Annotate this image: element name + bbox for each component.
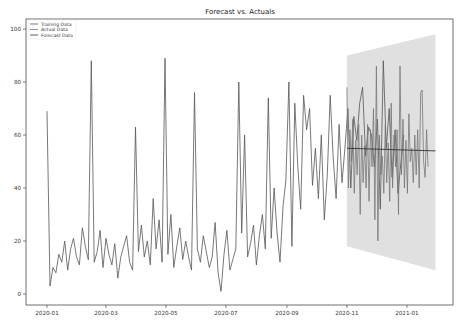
x-tick-label: 2020-07: [214, 310, 238, 316]
x-tick-label: 2020-11: [335, 310, 359, 316]
chart-title: Forecast vs. Actuals: [205, 8, 275, 16]
x-tick-label: 2021-01: [395, 310, 419, 316]
x-tick-label: 2020-05: [154, 310, 178, 316]
legend: Training Data Actual Data Forecast Data: [28, 20, 76, 39]
y-axis: 020406080100: [10, 26, 26, 297]
y-tick-label: 0: [17, 291, 21, 297]
forecast-chart: Forecast vs. Actuals 020406080100 2020-0…: [0, 0, 467, 327]
y-tick-label: 60: [14, 132, 22, 138]
legend-label-forecast: Forecast Data: [41, 33, 73, 38]
legend-label-actual: Actual Data: [41, 27, 68, 32]
y-tick-label: 40: [14, 185, 22, 191]
y-tick-label: 80: [14, 79, 22, 85]
y-tick-label: 20: [14, 238, 22, 244]
x-axis: 2020-012020-032020-052020-072020-092020-…: [35, 305, 419, 316]
x-tick-label: 2020-01: [35, 310, 59, 316]
y-tick-label: 100: [10, 26, 21, 32]
x-tick-label: 2020-09: [275, 310, 299, 316]
x-tick-label: 2020-03: [94, 310, 118, 316]
legend-label-training: Training Data: [40, 22, 72, 27]
